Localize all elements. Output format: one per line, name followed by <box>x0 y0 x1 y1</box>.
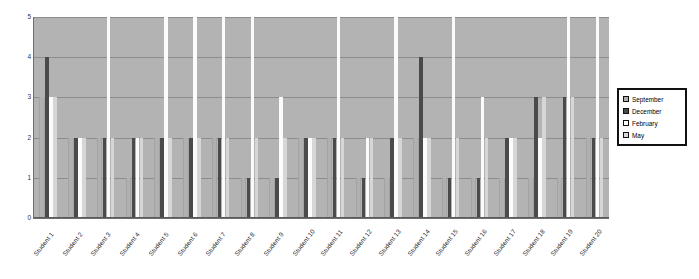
bar-december <box>477 178 480 218</box>
legend-item-may[interactable]: May <box>623 129 682 141</box>
x-tick-label: Student 20 <box>578 228 603 257</box>
x-tick-label: Student 7 <box>204 231 227 258</box>
x-axis-line <box>34 217 609 218</box>
bar-group <box>92 17 121 218</box>
bar-september <box>356 178 361 218</box>
bar-february <box>423 138 426 218</box>
bar-february <box>279 97 282 218</box>
bar-may <box>140 138 143 218</box>
y-tick-5: 5 <box>27 14 31 20</box>
legend-label-may: May <box>632 132 644 139</box>
bar-december <box>362 178 365 218</box>
bar-group <box>494 17 523 218</box>
chart-legend[interactable]: September December February May <box>617 88 687 146</box>
x-tick-label: Student 4 <box>118 231 141 258</box>
bar-september <box>471 178 476 218</box>
bar-september <box>413 138 418 218</box>
bar-may <box>600 138 603 218</box>
legend-item-december[interactable]: December <box>623 105 682 117</box>
bar-may <box>513 138 516 218</box>
bar-group <box>350 17 379 218</box>
x-tick-label: Student 19 <box>549 228 574 257</box>
x-tick-label: Student 18 <box>521 228 546 257</box>
x-tick-label: Student 14 <box>406 228 431 257</box>
bar-september <box>183 138 188 218</box>
y-tick-4: 4 <box>27 54 31 60</box>
legend-label-december: December <box>632 108 661 115</box>
bar-december <box>448 178 451 218</box>
bar-group <box>149 17 178 218</box>
x-tick-label: Student 1 <box>32 231 55 258</box>
plot-area <box>33 17 609 219</box>
x-tick-label: Student 17 <box>492 228 517 257</box>
bar-september <box>97 138 102 218</box>
bar-group <box>437 17 466 218</box>
y-tick-1: 1 <box>27 175 31 181</box>
bar-september <box>154 138 159 218</box>
bar-february <box>509 138 512 218</box>
bar-september <box>499 178 504 218</box>
bar-may <box>255 138 258 218</box>
bar-december <box>304 138 307 218</box>
bar-september <box>442 178 447 218</box>
bar-december <box>247 178 250 218</box>
bar-group <box>552 17 581 218</box>
bar-may <box>542 97 545 218</box>
swatch-september-icon <box>623 96 629 102</box>
bar-december <box>103 138 106 218</box>
bar-december <box>275 178 278 218</box>
bar-december <box>132 138 135 218</box>
bar-group <box>235 17 264 218</box>
bar-september <box>384 178 389 218</box>
bar-december <box>189 138 192 218</box>
bar-september <box>269 178 274 218</box>
bar-group <box>207 17 236 218</box>
bar-may <box>53 97 56 218</box>
x-tick-label: Student 13 <box>377 228 402 257</box>
bar-february <box>49 97 52 218</box>
bar-september <box>298 138 303 218</box>
x-tick-label: Student 5 <box>147 231 170 258</box>
x-tick-label: Student 6 <box>176 231 199 258</box>
legend-label-september: September <box>632 96 663 103</box>
bar-september <box>327 138 332 218</box>
bar-december <box>74 138 77 218</box>
bar-february <box>107 17 110 218</box>
bar-group <box>34 17 63 218</box>
bar-september <box>557 178 562 218</box>
y-tick-3: 3 <box>27 94 31 100</box>
y-tick-2: 2 <box>27 135 31 141</box>
bar-february <box>78 138 81 218</box>
x-tick-label: Student 3 <box>89 231 112 258</box>
bar-group <box>178 17 207 218</box>
bar-february <box>308 138 311 218</box>
legend-item-september[interactable]: September <box>623 93 682 105</box>
bar-september <box>39 97 44 218</box>
legend-label-february: February <box>632 120 658 127</box>
x-tick-label: Student 2 <box>61 231 84 258</box>
bar-chart: 012345 Student 1Student 2Student 3Studen… <box>0 0 699 279</box>
bar-september <box>528 178 533 218</box>
bar-may <box>341 138 344 218</box>
bar-december <box>563 97 566 218</box>
bar-february <box>337 17 340 218</box>
bar-december <box>534 97 537 218</box>
legend-item-february[interactable]: February <box>623 117 682 129</box>
bar-february <box>366 138 369 218</box>
bar-group <box>379 17 408 218</box>
bar-may <box>111 138 114 218</box>
x-axis-labels: Student 1Student 2Student 3Student 4Stud… <box>33 220 608 278</box>
bar-february <box>193 17 196 218</box>
bar-group <box>465 17 494 218</box>
bar-group <box>523 17 552 218</box>
bar-september <box>212 138 217 218</box>
bar-group <box>408 17 437 218</box>
bar-february <box>596 17 599 218</box>
bar-december <box>592 138 595 218</box>
bar-may <box>571 97 574 218</box>
bar-february <box>136 138 139 218</box>
bar-group <box>293 17 322 218</box>
bar-group <box>63 17 92 218</box>
x-tick-label: Student 9 <box>262 231 285 258</box>
bar-may <box>456 138 459 218</box>
